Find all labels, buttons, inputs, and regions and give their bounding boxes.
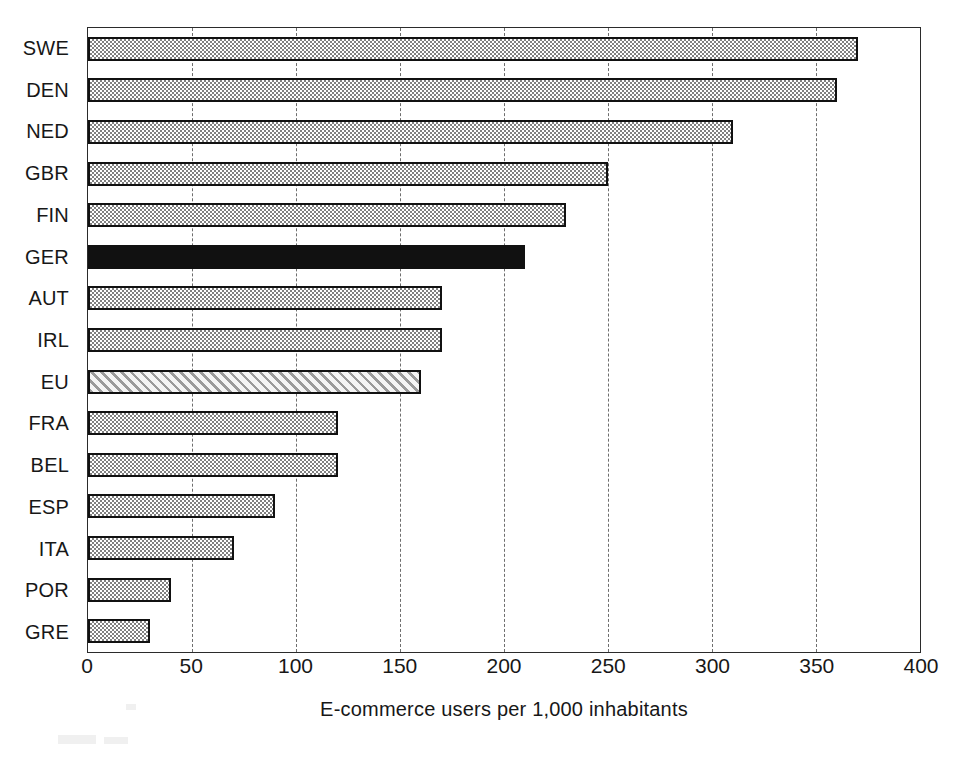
y-axis-label-6: AUT (0, 277, 78, 319)
y-axis-label-0: SWE (0, 27, 78, 69)
bar-row (88, 527, 920, 569)
y-axis-label-8: EU (0, 361, 78, 403)
x-tick-label-350: 350 (799, 655, 834, 676)
bar-row (88, 444, 920, 486)
y-axis-label-12: ITA (0, 528, 78, 570)
bar-ned[interactable] (88, 120, 733, 144)
bar-row (88, 153, 920, 195)
y-axis-label-1: DEN (0, 69, 78, 111)
x-tick-label-150: 150 (382, 655, 417, 676)
bar-row (88, 28, 920, 70)
x-tick-label-250: 250 (591, 655, 626, 676)
bar-row (88, 569, 920, 611)
x-tick-label-100: 100 (278, 655, 313, 676)
bar-row (88, 70, 920, 112)
y-axis-category-labels: SWE DEN NED GBR FIN GER AUT IRL EU FRA B… (0, 27, 78, 653)
bar-ger[interactable] (88, 245, 525, 269)
bar-row (88, 402, 920, 444)
bar-row (88, 486, 920, 528)
x-tick-label-200: 200 (486, 655, 521, 676)
bar-gre[interactable] (88, 619, 150, 643)
bar-gbr[interactable] (88, 162, 608, 186)
bar-row (88, 194, 920, 236)
x-axis-title: E-commerce users per 1,000 inhabitants (87, 698, 921, 721)
bar-aut[interactable] (88, 286, 442, 310)
y-axis-label-9: FRA (0, 403, 78, 445)
y-axis-label-4: FIN (0, 194, 78, 236)
plot-area (87, 27, 921, 653)
x-tick-label-50: 50 (180, 655, 203, 676)
scan-artifact (104, 737, 128, 744)
bar-row (88, 610, 920, 652)
bar-fin[interactable] (88, 203, 566, 227)
bar-esp[interactable] (88, 494, 275, 518)
bar-eu[interactable] (88, 370, 421, 394)
x-tick-label-300: 300 (695, 655, 730, 676)
bar-fra[interactable] (88, 411, 338, 435)
bar-row (88, 319, 920, 361)
bar-ita[interactable] (88, 536, 234, 560)
bar-swe[interactable] (88, 37, 858, 61)
bar-den[interactable] (88, 78, 837, 102)
y-axis-label-3: GBR (0, 152, 78, 194)
bar-chart: SWE DEN NED GBR FIN GER AUT IRL EU FRA B… (0, 0, 967, 760)
bar-series (88, 28, 920, 652)
scan-artifact (58, 735, 96, 744)
bar-row (88, 111, 920, 153)
y-axis-label-7: IRL (0, 319, 78, 361)
y-axis-label-11: ESP (0, 486, 78, 528)
bar-irl[interactable] (88, 328, 442, 352)
bar-por[interactable] (88, 578, 171, 602)
y-axis-label-2: NED (0, 110, 78, 152)
x-tick-label-400: 400 (903, 655, 938, 676)
bar-row (88, 278, 920, 320)
bar-row (88, 361, 920, 403)
y-axis-label-14: GRE (0, 611, 78, 653)
y-axis-label-10: BEL (0, 444, 78, 486)
y-axis-label-5: GER (0, 236, 78, 278)
bar-row (88, 236, 920, 278)
y-axis-label-13: POR (0, 570, 78, 612)
x-tick-label-0: 0 (81, 655, 93, 676)
x-axis-tick-labels: 050100150200250300350400 (87, 655, 921, 689)
bar-bel[interactable] (88, 453, 338, 477)
